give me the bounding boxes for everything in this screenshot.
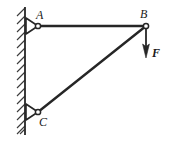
wall-hatching <box>17 8 25 134</box>
joint-pin-b <box>143 23 148 28</box>
label-point-c: C <box>39 116 47 128</box>
label-force-f: F <box>152 47 160 59</box>
label-point-b: B <box>140 8 147 20</box>
joint-pin-c <box>35 109 40 114</box>
statics-diagram-figure: A B C F <box>0 0 169 141</box>
force-arrow-f <box>143 28 150 58</box>
joint-pin-a <box>35 23 40 28</box>
member-cb <box>38 26 146 112</box>
diagram-canvas <box>0 0 169 141</box>
label-point-a: A <box>36 9 43 21</box>
